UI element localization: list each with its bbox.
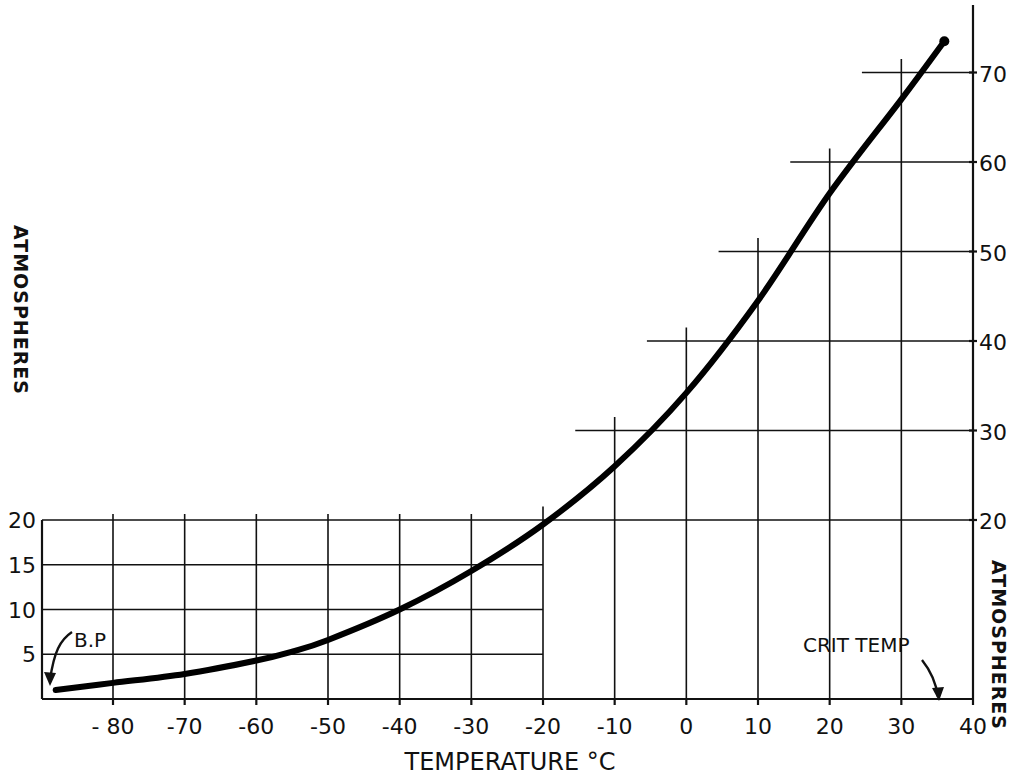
x-tick-label: -40 bbox=[382, 714, 418, 739]
right-y-tick-labels: 203040506070 bbox=[979, 62, 1007, 535]
critical-point-marker bbox=[939, 36, 949, 46]
right-y-tick-label: 20 bbox=[979, 509, 1007, 534]
right-y-tick-label: 40 bbox=[979, 330, 1007, 355]
x-tick-label: -50 bbox=[310, 714, 346, 739]
crit-temp-annotation: CRIT TEMP bbox=[803, 633, 944, 701]
right-y-tick-label: 70 bbox=[979, 62, 1007, 87]
x-tick-label: -70 bbox=[167, 714, 203, 739]
left-y-tick-label: 20 bbox=[8, 508, 36, 533]
x-tick-label: -30 bbox=[453, 714, 489, 739]
left-y-tick-labels: 5101520 bbox=[8, 508, 36, 667]
x-tick-label: 10 bbox=[744, 714, 772, 739]
bp-arrow-head bbox=[44, 672, 56, 686]
right-y-tick-label: 60 bbox=[979, 151, 1007, 176]
x-tick-label: 30 bbox=[887, 714, 915, 739]
x-tick-label: - 80 bbox=[92, 714, 135, 739]
x-tick-label: 20 bbox=[816, 714, 844, 739]
vapour-pressure-chart: - 80-70-60-50-40-30-20-10010203040 51015… bbox=[0, 0, 1025, 778]
grid-lines bbox=[42, 59, 973, 699]
bp-annotation: B.P bbox=[44, 628, 106, 686]
x-axis-label: TEMPERATURE °C bbox=[404, 748, 616, 776]
vapour-pressure-curve bbox=[56, 41, 945, 690]
left-y-tick-label: 5 bbox=[22, 642, 36, 667]
axes bbox=[42, 5, 977, 705]
right-y-axis-label: ATMOSPHERES bbox=[988, 560, 1010, 730]
x-tick-label: -20 bbox=[525, 714, 561, 739]
x-tick-label: -60 bbox=[238, 714, 274, 739]
right-y-tick-label: 50 bbox=[979, 241, 1007, 266]
bp-label: B.P bbox=[74, 628, 106, 652]
left-y-axis-label: ATMOSPHERES bbox=[10, 225, 32, 395]
x-tick-label: -10 bbox=[597, 714, 633, 739]
left-y-tick-label: 10 bbox=[8, 598, 36, 623]
x-tick-label: 0 bbox=[679, 714, 693, 739]
right-y-tick-label: 30 bbox=[979, 420, 1007, 445]
crit-temp-label: CRIT TEMP bbox=[803, 633, 910, 657]
x-tick-label: 40 bbox=[959, 714, 987, 739]
x-tick-labels: - 80-70-60-50-40-30-20-10010203040 bbox=[92, 714, 987, 739]
left-y-tick-label: 15 bbox=[8, 553, 36, 578]
